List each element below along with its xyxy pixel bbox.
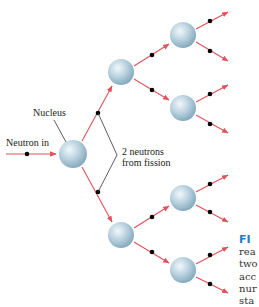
caption-line: two — [239, 258, 258, 270]
incoming-neutron-arrow — [6, 152, 56, 157]
nucleus-gen2-d — [170, 257, 196, 283]
nucleus-leader-line — [54, 120, 66, 142]
caption-line: acc — [239, 271, 258, 283]
two-neutrons-bracket — [98, 113, 117, 192]
gen1-top-arrows — [134, 44, 169, 100]
caption-line: sta — [239, 295, 258, 307]
caption-line: nur — [239, 283, 258, 295]
nucleus-gen1-top — [108, 59, 134, 85]
nucleus-gen2-a — [170, 22, 196, 48]
nucleus-gen2-c — [170, 185, 196, 211]
neutron-dot — [25, 152, 30, 157]
caption-line: rea — [239, 246, 258, 258]
nucleus-label: Nucleus — [33, 107, 66, 118]
gen2-arrows — [196, 12, 228, 293]
nucleus-gen0 — [59, 140, 87, 168]
two-neutrons-label-line2: from fission — [122, 157, 171, 168]
figure-caption: FI rea two acc nur sta — [239, 234, 258, 307]
nucleus-gen2-b — [170, 95, 196, 121]
nucleus-gen1-bottom — [108, 222, 134, 248]
two-neutrons-label-line1: 2 neutrons — [122, 146, 164, 157]
neutron-in-label: Neutron in — [6, 137, 49, 148]
gen1-bottom-arrows — [134, 206, 169, 263]
figure-label: FI — [239, 234, 258, 246]
